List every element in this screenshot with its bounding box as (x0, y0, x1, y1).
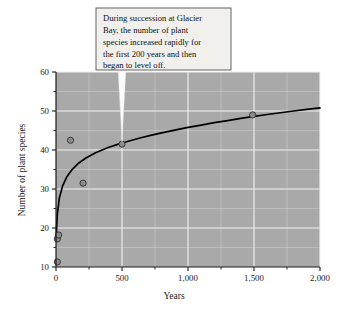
y-axis-title: Number of plant species (17, 123, 27, 216)
plant-species-succession-chart: During succession at Glacier Bay, the nu… (0, 0, 341, 311)
y-tick-label-3: 40 (40, 145, 49, 155)
callout-line-1: During succession at Glacier (103, 13, 202, 23)
callout-line-2: Bay, the number of plant (103, 25, 189, 35)
callout-box: During succession at Glacier Bay, the nu… (96, 8, 231, 70)
y-tick-label-1: 20 (40, 223, 49, 233)
y-tick-label-2: 30 (40, 184, 49, 194)
callout-line-3: species increased rapidly for (103, 37, 201, 47)
x-axis-title: Years (163, 291, 185, 301)
data-point-6 (250, 112, 256, 118)
y-tick-label-0: 10 (40, 262, 49, 272)
x-tick-label-0: 0 (54, 273, 59, 283)
x-tick-label-1: 500 (115, 273, 129, 283)
y-tick-label-4: 50 (40, 106, 49, 116)
data-point-3 (67, 137, 73, 143)
callout-line-4: the first 200 years and then (103, 49, 197, 59)
y-tick-label-5: 60 (40, 67, 49, 77)
data-point-4 (80, 180, 86, 186)
x-tick-label-2: 1,000 (178, 273, 198, 283)
data-point-0 (54, 259, 60, 265)
x-tick-label-3: 1,500 (244, 273, 264, 283)
callout-line-5: began to level off. (103, 60, 165, 70)
chart-figure: During succession at Glacier Bay, the nu… (0, 0, 341, 311)
x-tick-label-4: 2,000 (310, 273, 330, 283)
